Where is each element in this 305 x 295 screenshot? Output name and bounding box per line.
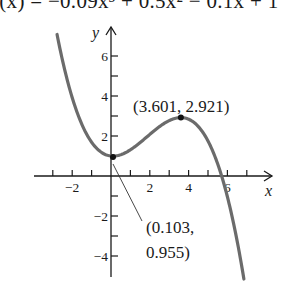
y-tick-label: −4 (94, 249, 109, 264)
x-ticks: −2246 (53, 170, 247, 195)
chart-plot: −2246 642−2−4 x y (3.601, 2.921) (0.103,… (0, 0, 305, 295)
min-point-label-line2: 0.955) (146, 243, 190, 262)
y-axis-label: y (90, 24, 100, 42)
max-point-label: (3.601, 2.921) (133, 97, 229, 116)
x-tick-label: 2 (146, 180, 153, 195)
min-leader-line (113, 164, 142, 221)
y-tick-label: 4 (101, 89, 108, 104)
relative-minimum-point (110, 154, 116, 160)
x-tick-label: 4 (185, 180, 192, 195)
x-axis-label: x (264, 182, 272, 199)
x-tick-label: −2 (65, 180, 79, 195)
y-tick-label: −2 (94, 209, 108, 224)
y-tick-label: 2 (101, 129, 108, 144)
min-point-label-line1: (0.103, (146, 218, 194, 237)
y-tick-label: 6 (101, 49, 108, 64)
